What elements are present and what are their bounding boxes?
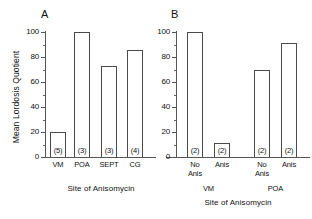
- y-tick-major: [172, 32, 176, 33]
- y-tick-label: 100: [144, 27, 170, 36]
- bar-sample-size: (2): [250, 146, 274, 155]
- y-tick-label: 40: [144, 102, 170, 111]
- panel-b-letter: B: [171, 8, 179, 20]
- bar-sample-size: (2): [210, 146, 234, 155]
- panel-b-group-label: VM: [184, 184, 234, 193]
- y-tick-minor: [174, 145, 176, 146]
- y-tick-minor: [174, 95, 176, 96]
- panel-b-y-axis: [176, 31, 177, 158]
- bar: [187, 32, 203, 157]
- y-tick-major: [172, 57, 176, 58]
- y-tick-minor: [174, 120, 176, 121]
- x-category-label-line: Anis: [271, 161, 307, 170]
- y-tick-label: 20: [144, 127, 170, 136]
- y-tick-major: [172, 132, 176, 133]
- y-tick-major: [172, 82, 176, 83]
- x-category-label-line: Anis: [244, 170, 280, 179]
- y-tick-minor: [174, 70, 176, 71]
- x-category-label: Anis: [204, 161, 240, 170]
- bar: [281, 43, 297, 157]
- panel-b-x-axis: [166, 157, 310, 158]
- bar-sample-size: (2): [183, 146, 207, 155]
- bar: [254, 70, 270, 157]
- y-tick-major: [172, 107, 176, 108]
- y-tick-label: 80: [144, 52, 170, 61]
- x-category-label-line: Anis: [177, 170, 213, 179]
- x-category-label: Anis: [271, 161, 307, 170]
- panel-b: B 020406080100 (2)NoAnis(2)Anis(2)NoAnis…: [0, 0, 312, 219]
- bar-sample-size: (2): [277, 146, 301, 155]
- y-tick-minor: [174, 45, 176, 46]
- panel-b-x-axis-title: Site of Anisomycin: [173, 198, 303, 207]
- y-tick-major: [172, 157, 176, 158]
- panel-b-group-label: POA: [251, 184, 301, 193]
- y-tick-label: 60: [144, 77, 170, 86]
- y-tick-label: 0: [144, 152, 170, 161]
- figure-root: A Mean Lordosis Quotient 020406080100 (5…: [0, 0, 312, 219]
- x-category-label-line: Anis: [204, 161, 240, 170]
